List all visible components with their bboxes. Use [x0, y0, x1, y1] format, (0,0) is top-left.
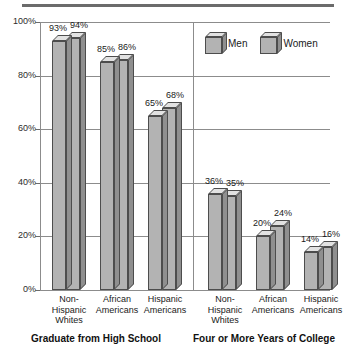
legend-entry-men: Men — [205, 32, 247, 54]
gridline — [40, 290, 330, 291]
group-title-high-school: Graduate from High School — [16, 333, 176, 344]
bar-value-label: 24% — [274, 208, 292, 218]
bar-value-label: 16% — [322, 229, 340, 239]
bar-value-label: 14% — [301, 234, 319, 244]
y-axis-tick-label: 100% — [2, 16, 36, 26]
bar-chart-figure: 100%80%60%40%20%0% 93%94%85%86%65%68%36%… — [0, 0, 356, 351]
category-label-line: Americans — [289, 305, 353, 316]
bar-value-label: 86% — [118, 42, 136, 52]
bar-men — [304, 252, 318, 290]
y-axis-tick-label: 0% — [2, 284, 36, 294]
bar-men — [208, 194, 222, 290]
bar-men — [52, 41, 66, 290]
group-divider-line — [193, 22, 194, 290]
bar-value-label: 85% — [97, 44, 115, 54]
legend-entry-women: Women — [260, 32, 317, 54]
group-title-college: Four or More Years of College — [184, 333, 344, 344]
legend-swatch-cube-icon — [205, 37, 222, 54]
y-axis-line — [40, 22, 41, 290]
category-label-line: Hispanic — [289, 294, 353, 305]
category-label-line: Whites — [193, 315, 257, 326]
y-axis-tick-label: 40% — [2, 177, 36, 187]
bar-men — [256, 236, 270, 290]
figure-title — [22, 0, 334, 1]
category-label-line: Hispanic — [133, 294, 197, 305]
bar-men — [148, 116, 162, 290]
category-label-line: Americans — [133, 305, 197, 316]
bar-value-label: 65% — [145, 98, 163, 108]
x-axis-category-label: HispanicAmericans — [289, 294, 353, 315]
y-axis-tick-label: 60% — [2, 123, 36, 133]
plot-area: 93%94%85%86%65%68%36%35%20%24%14%16% — [40, 22, 330, 290]
bar-value-label: 20% — [253, 218, 271, 228]
y-axis-tick-mark — [35, 290, 40, 291]
y-axis-tick-label: 20% — [2, 230, 36, 240]
category-label-line: Whites — [37, 315, 101, 326]
bar-value-label: 36% — [205, 176, 223, 186]
bar-value-label: 35% — [226, 178, 244, 188]
legend-swatch-cube-icon — [260, 37, 277, 54]
x-axis-category-label: HispanicAmericans — [133, 294, 197, 315]
legend: Men Women — [205, 32, 318, 54]
bar-value-label: 93% — [49, 23, 67, 33]
y-axis-tick-label: 80% — [2, 70, 36, 80]
bar-men — [100, 62, 114, 290]
bar-value-label: 68% — [166, 90, 184, 100]
legend-label-men: Men — [228, 38, 247, 49]
legend-label-women: Women — [283, 38, 317, 49]
title-rule — [22, 4, 334, 7]
bar-value-label: 94% — [70, 20, 88, 30]
